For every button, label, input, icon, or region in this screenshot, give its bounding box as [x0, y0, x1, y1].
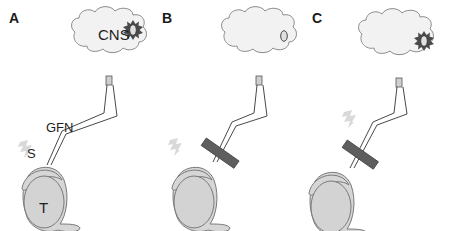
- ganglion-c: [396, 78, 402, 87]
- panel-b: [168, 7, 296, 231]
- tumor-label: T: [39, 199, 48, 216]
- inactive-oval-icon: [281, 31, 288, 42]
- figure: A B C CNS: [0, 0, 452, 231]
- gfn-label: GFN: [46, 120, 73, 135]
- blocker-bar-c: [342, 140, 378, 169]
- cns-cloud-b: [222, 7, 297, 53]
- ganglion-a: [106, 76, 112, 85]
- cns-label: CNS: [98, 26, 130, 43]
- tumor-body-a: [22, 167, 80, 231]
- lightning-icon-b: [168, 138, 182, 156]
- panel-a: CNS GFN S T: [18, 7, 146, 231]
- tumor-body-b: [172, 167, 230, 231]
- skin-label: S: [27, 146, 36, 161]
- lightning-icon-c: [342, 110, 356, 128]
- tumor-body-c: [309, 172, 367, 231]
- panel-c: [309, 9, 434, 231]
- diagram-canvas: CNS GFN S T: [0, 0, 452, 231]
- ganglion-b: [256, 76, 262, 85]
- blocker-bar-b: [201, 138, 239, 168]
